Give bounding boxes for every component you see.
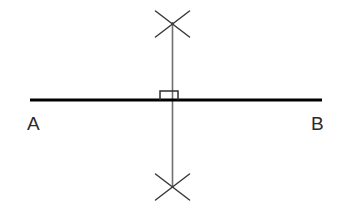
- point-label-b: B: [311, 114, 324, 133]
- construction-canvas: [0, 0, 344, 207]
- point-label-a: A: [27, 114, 40, 133]
- geometry-diagram: A B: [0, 0, 344, 207]
